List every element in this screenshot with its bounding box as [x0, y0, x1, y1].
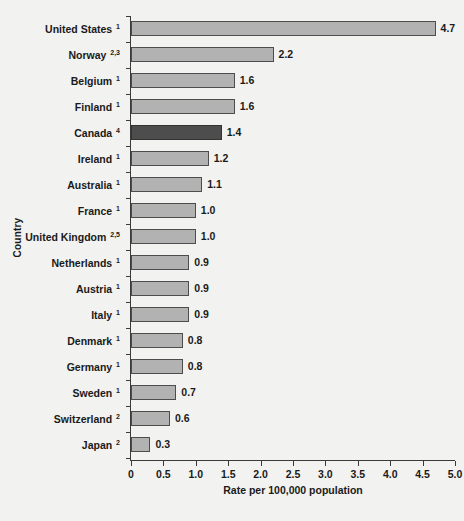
- category-footnote: 1: [116, 75, 120, 82]
- bar: [131, 99, 235, 114]
- category-footnote: 1: [116, 387, 120, 394]
- bar-value-label: 4.7: [441, 20, 456, 37]
- bar-value-label: 0.9: [194, 254, 209, 271]
- y-axis-tick: [126, 328, 131, 329]
- category-footnote: 1: [116, 283, 120, 290]
- y-axis-tick: [126, 172, 131, 173]
- y-axis-tick: [126, 94, 131, 95]
- y-axis-tick: [126, 354, 131, 355]
- bar-value-label: 2.2: [279, 46, 294, 63]
- category-label: France 1: [78, 198, 120, 224]
- bar: [131, 229, 196, 244]
- bar-value-label: 1.2: [214, 150, 229, 167]
- bar-value-label: 0.3: [155, 436, 170, 453]
- category-footnote: 2,3: [110, 49, 120, 56]
- plot-area: United States 14.7Norway 2,32.2Belgium 1…: [131, 16, 455, 460]
- category-label: Norway 2,3: [68, 42, 120, 68]
- bar-value-label: 0.8: [188, 358, 203, 375]
- x-axis-tick: [325, 461, 326, 466]
- category-label: Germany 1: [67, 354, 120, 380]
- bar-value-label: 1.6: [240, 72, 255, 89]
- category-label: United Kingdom 2,5: [25, 224, 120, 250]
- y-axis-tick: [126, 380, 131, 381]
- bar-row: Ireland 11.2: [131, 146, 455, 172]
- bar: [131, 307, 189, 322]
- bar-row: France 11.0: [131, 198, 455, 224]
- bar-row: Canada 41.4: [131, 120, 455, 146]
- category-label: Austria 1: [76, 276, 120, 302]
- bar-row: Belgium 11.6: [131, 68, 455, 94]
- y-axis-tick: [126, 120, 131, 121]
- y-axis-tick: [126, 146, 131, 147]
- category-label: Switzerland 2: [54, 406, 120, 432]
- category-label: Japan 2: [82, 432, 120, 458]
- y-axis-title: Country: [12, 208, 23, 268]
- bar-row: Denmark 10.8: [131, 328, 455, 354]
- bar: [131, 73, 235, 88]
- x-axis-tick: [261, 461, 262, 466]
- bar-value-label: 0.8: [188, 332, 203, 349]
- bar: [131, 47, 274, 62]
- category-label: Sweden 1: [72, 380, 120, 406]
- y-axis-tick: [126, 458, 131, 459]
- category-footnote: 1: [116, 309, 120, 316]
- bar-row: United States 14.7: [131, 16, 455, 42]
- category-label: Australia 1: [67, 172, 120, 198]
- category-label: Finland 1: [75, 94, 120, 120]
- y-axis-tick: [126, 224, 131, 225]
- x-axis-tick: [358, 461, 359, 466]
- bar: [131, 281, 189, 296]
- bar-row: United Kingdom 2,51.0: [131, 224, 455, 250]
- bar: [131, 21, 436, 36]
- x-axis-tick: [196, 461, 197, 466]
- bar: [131, 255, 189, 270]
- y-axis-tick: [126, 250, 131, 251]
- category-footnote: 1: [116, 101, 120, 108]
- x-axis-tick: [455, 461, 456, 466]
- y-axis-tick: [126, 432, 131, 433]
- category-footnote: 4: [116, 127, 120, 134]
- bar-value-label: 0.9: [194, 306, 209, 323]
- x-axis-tick: [228, 461, 229, 466]
- bar-row: Austria 10.9: [131, 276, 455, 302]
- category-footnote: 1: [116, 205, 120, 212]
- x-axis-title: Rate per 100,000 population: [131, 484, 455, 496]
- x-axis-tick: [390, 461, 391, 466]
- y-axis-tick: [126, 276, 131, 277]
- category-label: Italy 1: [91, 302, 120, 328]
- bar-row: Australia 11.1: [131, 172, 455, 198]
- bar-value-label: 1.6: [240, 98, 255, 115]
- y-axis-tick: [126, 302, 131, 303]
- bar-row: Germany 10.8: [131, 354, 455, 380]
- category-label: Belgium 1: [71, 68, 120, 94]
- x-axis-tick: [163, 461, 164, 466]
- category-footnote: 2: [116, 439, 120, 446]
- bar-row: Sweden 10.7: [131, 380, 455, 406]
- bar-row: Japan 20.3: [131, 432, 455, 458]
- bar: [131, 125, 222, 140]
- bar-row: Switzerland 20.6: [131, 406, 455, 432]
- y-axis-tick: [126, 16, 131, 17]
- category-footnote: 1: [116, 23, 120, 30]
- bar-row: Netherlands 10.9: [131, 250, 455, 276]
- category-footnote: 2: [116, 413, 120, 420]
- bar: [131, 411, 170, 426]
- category-footnote: 1: [116, 257, 120, 264]
- x-axis-tick-label: 5.0: [435, 468, 464, 480]
- bar-value-label: 0.9: [194, 280, 209, 297]
- bar-row: Finland 11.6: [131, 94, 455, 120]
- category-footnote: 1: [116, 179, 120, 186]
- bar: [131, 385, 176, 400]
- bar: [131, 359, 183, 374]
- y-axis-tick: [126, 42, 131, 43]
- bar-value-label: 0.7: [181, 384, 196, 401]
- category-label: United States 1: [45, 16, 120, 42]
- bar-value-label: 1.1: [207, 176, 222, 193]
- x-axis-tick: [131, 461, 132, 466]
- bar: [131, 151, 209, 166]
- bar: [131, 333, 183, 348]
- y-axis-tick: [126, 406, 131, 407]
- category-footnote: 2,5: [110, 231, 120, 238]
- y-axis-tick: [126, 198, 131, 199]
- bar-value-label: 1.4: [227, 124, 242, 141]
